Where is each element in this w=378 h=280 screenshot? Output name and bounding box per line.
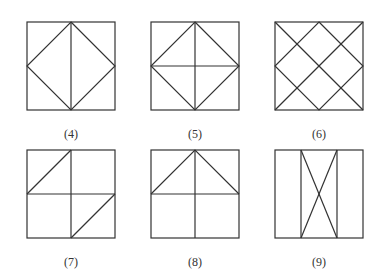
figure-8 xyxy=(151,150,239,238)
top-left-diagonal xyxy=(27,150,71,194)
figure-label: (7) xyxy=(41,255,101,270)
bottom-right-diagonal xyxy=(71,194,115,238)
figure-label: (6) xyxy=(289,127,349,142)
figure-label: (9) xyxy=(289,255,349,270)
figure-4 xyxy=(27,22,115,110)
figure-label: (8) xyxy=(165,255,225,270)
figure-5 xyxy=(151,22,239,110)
figure-9 xyxy=(275,150,363,238)
figure-label: (4) xyxy=(41,127,101,142)
figure-6 xyxy=(275,22,363,110)
figure-7 xyxy=(27,150,115,238)
figure-label: (5) xyxy=(165,127,225,142)
